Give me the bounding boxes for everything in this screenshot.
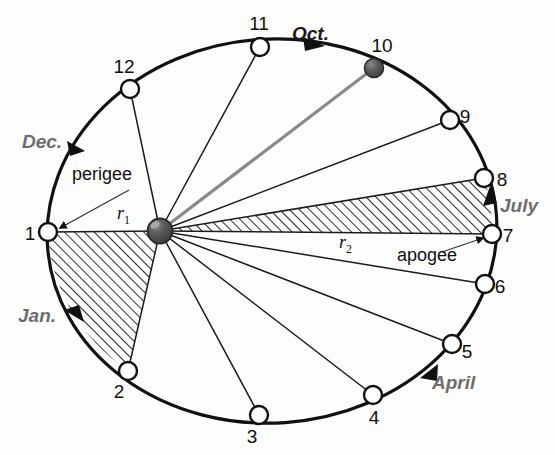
radius-line-12 (130, 89, 160, 231)
orbit-diagram-svg: 1 2 3 4 5 6 7 8 9 10 11 12 Dec. Jan. Apr… (0, 0, 555, 455)
apogee-label: apogee (397, 245, 457, 265)
orbit-node-1[interactable] (39, 223, 57, 241)
point-label-2: 2 (114, 381, 125, 402)
orbit-node-7[interactable] (483, 225, 501, 243)
orbit-node-5[interactable] (443, 335, 461, 353)
month-label-july: July (500, 195, 539, 216)
orbit-node-12[interactable] (121, 80, 139, 98)
orbit-node-2[interactable] (119, 362, 137, 380)
orbit-node-4[interactable] (364, 386, 382, 404)
orbit-node-6[interactable] (476, 275, 494, 293)
earth-body (148, 219, 173, 244)
month-label-dec: Dec. (22, 131, 62, 152)
r2-label: r2 (339, 232, 352, 256)
point-label-4: 4 (369, 407, 380, 428)
point-label-12: 12 (113, 56, 134, 77)
point-label-10: 10 (371, 35, 392, 56)
radius-line-4 (160, 231, 373, 395)
point-label-11: 11 (249, 13, 269, 34)
point-label-6: 6 (495, 276, 506, 297)
orbit-node-3[interactable] (250, 406, 268, 424)
orbit-node-9[interactable] (441, 111, 459, 129)
point-label-1: 1 (25, 223, 36, 244)
point-label-8: 8 (497, 169, 508, 190)
month-label-jan: Jan. (18, 305, 56, 326)
orbit-node-11[interactable] (251, 38, 269, 56)
r1-subscript: 1 (124, 213, 130, 227)
point-label-5: 5 (462, 341, 473, 362)
earth-sphere (148, 219, 173, 244)
radius-line-11 (160, 47, 260, 231)
perigee-sector-hatch (48, 231, 160, 371)
orbit-diagram: 1 2 3 4 5 6 7 8 9 10 11 12 Dec. Jan. Apr… (0, 0, 555, 455)
perigee-label: perigee (72, 164, 132, 184)
radius-line-3 (160, 231, 259, 415)
r1-label: r1 (117, 203, 130, 227)
point-label-7: 7 (503, 225, 514, 246)
orbit-node-10-moon[interactable] (365, 59, 384, 78)
apogee-sector-hatch (160, 178, 492, 234)
orbit-node-8[interactable] (475, 169, 493, 187)
month-label-april: April (431, 372, 476, 393)
month-label-oct: Oct. (292, 23, 329, 44)
point-label-3: 3 (247, 426, 258, 447)
radius-line-1 (48, 231, 160, 232)
point-label-9: 9 (460, 106, 471, 127)
r2-subscript: 2 (346, 242, 352, 256)
